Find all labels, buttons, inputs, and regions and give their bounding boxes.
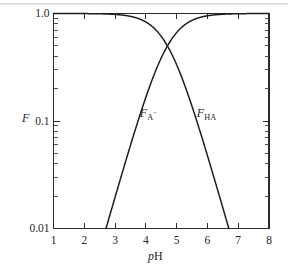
y-tick-label-2: 0.01	[29, 223, 49, 235]
y-tick-label-0: 1.0	[35, 8, 49, 20]
x-tick-label-1: 2	[74, 235, 94, 247]
curves-group	[54, 14, 270, 229]
x-tick-label-2: 3	[105, 235, 125, 247]
curve-fa-minus	[106, 14, 269, 229]
axes-group	[54, 14, 270, 229]
x-axis-title: pH	[148, 250, 163, 262]
x-tick-label-3: 4	[136, 235, 156, 247]
curve-fha	[54, 14, 229, 229]
ticks-group	[54, 14, 270, 229]
y-axis-title-text: F	[22, 111, 29, 125]
x-tick-label-5: 6	[197, 235, 217, 247]
y-tick-label-1: 0.1	[35, 116, 49, 128]
x-tick-label-6: 7	[228, 235, 248, 247]
curve-label-fa-sup-minus: −	[153, 109, 157, 117]
x-tick-label-4: 5	[167, 235, 187, 247]
curve-label-fa-minus: FA−	[140, 107, 157, 119]
curve-label-fha-sub: HA	[204, 113, 216, 122]
curve-label-fa-sub: A−	[147, 113, 157, 122]
x-tick-label-0: 1	[44, 235, 64, 247]
curve-label-fha: FHA	[197, 107, 216, 119]
axis-frame	[54, 14, 270, 229]
y-axis-title: F	[22, 112, 29, 124]
x-tick-label-7: 8	[259, 235, 279, 247]
x-axis-title-h: H	[154, 249, 163, 263]
chart-figure: 1.00.10.01 12345678 F pH FA− FHA	[0, 0, 288, 269]
